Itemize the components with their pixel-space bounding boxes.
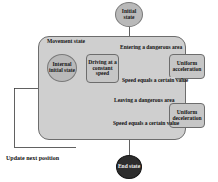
- speed-equals-upper-text: Speed equals a certain value: [122, 77, 188, 83]
- movement-state-title: Movement state: [47, 38, 85, 44]
- end-state-label: End state: [118, 164, 140, 170]
- uniform-acceleration-label: Uniform acceleration: [171, 61, 203, 73]
- state-diagram-canvas: Initial state Movement state Internal in…: [0, 0, 218, 182]
- transition-label-speed-equals-lower: Speed equals a certain value: [112, 120, 168, 126]
- loop-label-update-next-position: Update next position: [6, 155, 59, 161]
- internal-initial-state-label: Internal initial state: [48, 62, 76, 73]
- state-driving-at-constant-speed[interactable]: Driving at a constant speed: [86, 54, 119, 83]
- speed-equals-lower-text: Speed equals a certain value: [113, 120, 179, 126]
- leaving-dangerous-area-text: Leaving a dangerous area: [114, 97, 174, 103]
- initial-state-label: Initial state: [116, 9, 142, 20]
- internal-initial-state-node[interactable]: Internal initial state: [47, 54, 77, 82]
- end-state-node[interactable]: End state: [116, 155, 142, 179]
- transition-label-leaving-dangerous-area: Leaving a dangerous area: [113, 97, 169, 103]
- transition-label-speed-equals-upper: Speed equals a certain value: [121, 77, 175, 83]
- transition-label-entering-dangerous-area: Entering a dangerous area: [119, 44, 176, 50]
- state-uniform-acceleration[interactable]: Uniform acceleration: [169, 54, 205, 79]
- entering-dangerous-area-text: Entering a dangerous area: [120, 44, 182, 50]
- initial-state-node[interactable]: Initial state: [115, 2, 143, 27]
- driving-state-label: Driving at a constant speed: [88, 60, 117, 78]
